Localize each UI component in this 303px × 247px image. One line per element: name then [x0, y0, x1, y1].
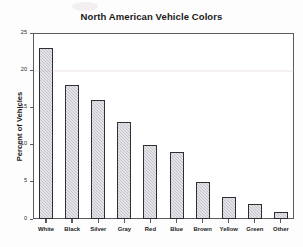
x-tick-label-gray: Gray: [118, 226, 131, 232]
bar-white[interactable]: [39, 48, 53, 219]
x-tick: Silver: [85, 219, 111, 247]
x-tick-mark: [254, 219, 255, 223]
y-tick-label: 0: [24, 215, 27, 221]
bar-slot: [164, 33, 190, 219]
x-tick-mark: [150, 219, 151, 223]
bar-slot: [85, 33, 111, 219]
x-tick: Blue: [164, 219, 190, 247]
bar-slot: [137, 33, 163, 219]
bar-yellow[interactable]: [222, 197, 236, 219]
x-tick-mark: [176, 219, 177, 223]
x-tick-mark: [45, 219, 46, 223]
bar-slot: [59, 33, 85, 219]
x-tick: Yellow: [216, 219, 242, 247]
x-tick-mark: [228, 219, 229, 223]
bar-slot: [268, 33, 294, 219]
x-tick-label-other: Other: [273, 226, 289, 232]
x-tick: Brown: [190, 219, 216, 247]
y-tick-label: 25: [21, 29, 27, 35]
y-tick-label: 20: [21, 66, 27, 72]
bar-slot: [242, 33, 268, 219]
x-tick: Other: [268, 219, 294, 247]
bar-slot: [190, 33, 216, 219]
x-tick-mark: [71, 219, 72, 223]
bar-slot: [33, 33, 59, 219]
x-tick-label-black: Black: [64, 226, 80, 232]
x-axis-ticks: WhiteBlackSilverGrayRedBlueBrownYellowGr…: [33, 219, 294, 247]
bar-slot: [111, 33, 137, 219]
bar-blue[interactable]: [170, 152, 184, 219]
x-tick-label-yellow: Yellow: [220, 226, 238, 232]
bar-slot: [216, 33, 242, 219]
bar-silver[interactable]: [91, 100, 105, 219]
x-tick-mark: [202, 219, 203, 223]
x-tick-label-green: Green: [246, 226, 263, 232]
x-tick: White: [33, 219, 59, 247]
bar-other[interactable]: [274, 212, 288, 219]
x-tick: Red: [137, 219, 163, 247]
x-tick-label-red: Red: [145, 226, 156, 232]
bar-gray[interactable]: [117, 122, 131, 219]
x-tick-mark: [124, 219, 125, 223]
x-tick: Black: [59, 219, 85, 247]
x-tick-label-silver: Silver: [90, 226, 106, 232]
x-tick: Green: [242, 219, 268, 247]
x-tick-label-brown: Brown: [193, 226, 211, 232]
y-tick-label: 5: [24, 177, 27, 183]
chart-figure: North American Vehicle Colors Percent of…: [0, 0, 303, 247]
bar-brown[interactable]: [196, 182, 210, 219]
x-tick-label-blue: Blue: [170, 226, 183, 232]
chart-title: North American Vehicle Colors: [0, 11, 303, 22]
y-tick-label: 15: [21, 103, 27, 109]
bar-black[interactable]: [65, 85, 79, 219]
y-axis-title: Percent of Vehicles: [15, 67, 24, 187]
x-tick: Gray: [111, 219, 137, 247]
bars-area: [33, 33, 294, 219]
x-tick-mark: [280, 219, 281, 223]
x-tick-mark: [98, 219, 99, 223]
x-tick-label-white: White: [38, 226, 54, 232]
y-tick-label: 10: [21, 140, 27, 146]
bar-red[interactable]: [143, 145, 157, 219]
bar-green[interactable]: [248, 204, 262, 219]
